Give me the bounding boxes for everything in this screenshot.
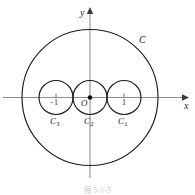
tick-label-negative-one: −1 [50,99,59,107]
figure-container: y x C O −1 1 C3 C2 C1 图 5-1-5 [0,0,195,195]
small-circle-label-C1: C1 [118,117,127,126]
small-circle-label-C3: C3 [50,117,59,126]
figure-caption: 图 5-1-5 [0,184,195,195]
y-axis-arrow-icon [87,7,93,14]
circle-label-sub-c3: 3 [56,120,59,127]
circle-label-sub-c2: 2 [90,120,93,127]
x-axis-label: x [184,101,188,111]
origin-label: O [81,99,88,108]
outer-circle-label-C: C [139,35,146,45]
origin-dot-marker [88,95,93,100]
tick-label-positive-one: 1 [122,99,126,107]
geometry-diagram [0,0,195,195]
circle-label-sub-c1: 1 [124,120,127,127]
small-circle-label-C2: C2 [84,117,93,126]
y-axis-label: y [80,8,84,18]
